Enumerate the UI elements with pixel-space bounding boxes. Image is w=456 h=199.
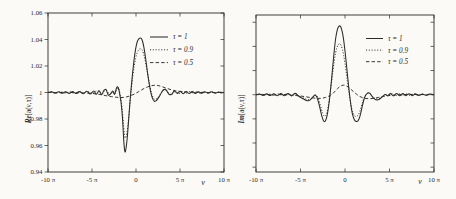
y-tick-label: 1.02 <box>31 62 43 69</box>
y-tick-label: 1.04 <box>31 36 43 43</box>
y-tick-label: 0.96 <box>31 142 43 149</box>
x-tick-label: -5 π <box>295 176 306 183</box>
x-tick-label: 10 π <box>428 176 440 183</box>
legend-label: τ = 0.5 <box>388 58 408 66</box>
scanned-figure: 0.940.960.9811.021.041.06-10 π-5 π05 π10… <box>0 0 456 199</box>
series-curve-dashed <box>48 85 224 97</box>
x-tick-label: -10 π <box>41 176 56 183</box>
x-tick-label: 5 π <box>385 176 394 183</box>
legend-label: τ = 1 <box>173 33 188 41</box>
y-axis-label: Im[a(ν,τ)] <box>238 94 246 124</box>
x-axis-label: ν <box>201 178 205 187</box>
x-tick-label: 0 <box>134 176 138 183</box>
x-tick-label: -5 π <box>87 176 98 183</box>
legend-label: τ = 0.5 <box>173 59 193 67</box>
series-curve-dotted <box>48 49 224 138</box>
im-chart: -10 π-5 π05 π10 πIm[a(ν,τ)]ντ = 1τ = 0.9… <box>228 0 456 199</box>
x-axis-label: ν <box>418 177 422 186</box>
re-chart: 0.940.960.9811.021.041.06-10 π-5 π05 π10… <box>0 0 228 199</box>
plot-frame <box>256 15 434 172</box>
y-tick-label: 1.06 <box>31 9 43 16</box>
legend-label: τ = 1 <box>388 35 403 43</box>
im-plot-svg: -10 π-5 π05 π10 πIm[a(ν,τ)]ντ = 1τ = 0.9… <box>228 0 456 199</box>
series-curve-dashed <box>256 85 434 99</box>
y-tick-label: 0.94 <box>31 168 43 175</box>
x-tick-label: 0 <box>343 176 347 183</box>
y-axis-label: Re[a(ν,τ)] <box>25 95 33 125</box>
legend-label: τ = 0.9 <box>173 46 193 54</box>
x-tick-label: 5 π <box>176 176 185 183</box>
series-curve-solid <box>256 26 434 122</box>
y-tick-label: 1 <box>39 89 42 96</box>
re-plot-svg: 0.940.960.9811.021.041.06-10 π-5 π05 π10… <box>0 0 228 199</box>
legend-label: τ = 0.9 <box>388 47 408 55</box>
series-curve-solid <box>48 38 224 152</box>
x-tick-label: -10 π <box>249 176 264 183</box>
